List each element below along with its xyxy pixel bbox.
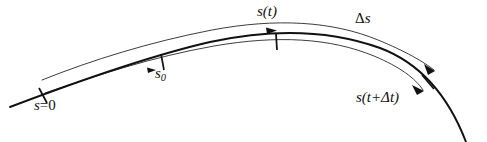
label-s-of-t-plus-delta-t: s(t+Δt) (356, 90, 399, 105)
label-delta-s-delta: Δ (355, 10, 365, 26)
label-delta-s-var: s (365, 10, 371, 26)
arrow-s-t-plus-delta-t-icon (412, 85, 424, 95)
label-delta-s: Δs (355, 11, 371, 26)
lower-measure-arc (45, 40, 423, 93)
upper-measure-arc (42, 23, 434, 80)
label-s-equals-zero-value: 0 (48, 97, 56, 113)
arc-length-diagram: s=0 s0 s(t) Δs s(t+Δt) (0, 0, 487, 142)
tick-s-of-t (276, 34, 277, 50)
main-curve (10, 33, 466, 142)
curve-canvas (0, 0, 487, 142)
label-s-naught-subscript: 0 (161, 72, 166, 83)
label-s-naught: s0 (155, 66, 166, 83)
label-s-equals-zero: s=0 (34, 98, 56, 113)
label-s-of-t: s(t) (257, 4, 277, 19)
tick-s-t-plus-delta-t (422, 75, 434, 89)
